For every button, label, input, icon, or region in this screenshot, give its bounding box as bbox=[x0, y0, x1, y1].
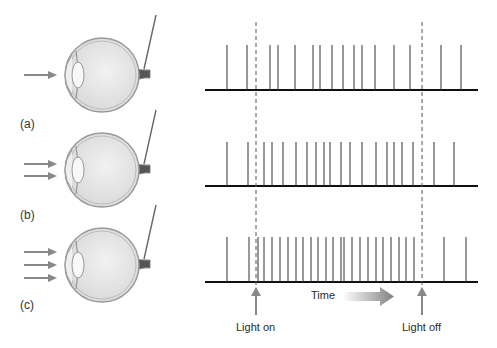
light-off-label: Light off bbox=[402, 321, 441, 333]
time-arrow-icon bbox=[343, 287, 394, 306]
spike-train-c bbox=[205, 237, 478, 282]
cornea bbox=[65, 245, 72, 285]
spike-train-diagram bbox=[0, 0, 497, 348]
panel-label-c: (c) bbox=[20, 298, 34, 312]
spike-train-a bbox=[205, 45, 478, 90]
panel-label-b: (b) bbox=[20, 208, 35, 222]
electrode bbox=[144, 15, 156, 69]
lens bbox=[72, 157, 84, 183]
lens bbox=[72, 252, 84, 278]
eye-a bbox=[24, 15, 156, 112]
electrode bbox=[144, 205, 156, 259]
electrode bbox=[144, 110, 156, 164]
light-on-label: Light on bbox=[236, 321, 275, 333]
panel-label-a: (a) bbox=[20, 117, 35, 131]
cornea bbox=[65, 55, 72, 95]
cornea bbox=[65, 150, 72, 190]
eye-c bbox=[24, 205, 156, 302]
time-label: Time bbox=[311, 289, 335, 301]
lens bbox=[72, 62, 84, 88]
eye-b bbox=[24, 110, 156, 207]
spike-train-b bbox=[205, 142, 478, 186]
